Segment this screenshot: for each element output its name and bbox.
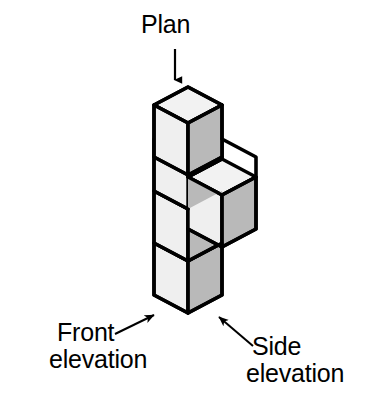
label-side-line-2: elevation <box>246 360 362 387</box>
label-plan: Plan <box>141 11 190 38</box>
isometric-figure: Plan Front elevation Side elevation <box>0 0 365 413</box>
label-front-elevation: Front elevation <box>49 319 169 373</box>
cube-solid <box>154 87 256 313</box>
label-front-line-1: Front <box>49 319 169 346</box>
label-front-line-2: elevation <box>49 346 169 373</box>
label-side-line-1: Side <box>246 333 362 360</box>
label-side-elevation: Side elevation <box>246 333 362 387</box>
